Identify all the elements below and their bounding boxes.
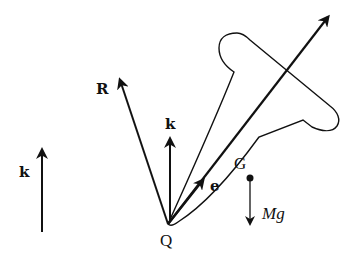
weight-label-m: M [261, 204, 277, 223]
reference-k-label: k [19, 163, 30, 181]
rigid-body-diagram: R k k e G Q Mg [0, 0, 354, 266]
weight-label-g: g [276, 204, 285, 223]
weight-label: Mg [261, 204, 285, 223]
body-k-label: k [165, 115, 176, 133]
reaction-force-label: R [96, 80, 109, 98]
axis-unit-label: e [210, 177, 220, 195]
center-of-mass-point [247, 175, 254, 182]
pivot-label: Q [160, 231, 172, 250]
body-outline [168, 33, 339, 225]
reaction-force-arrow [120, 80, 168, 224]
center-of-mass-label: G [234, 154, 246, 173]
